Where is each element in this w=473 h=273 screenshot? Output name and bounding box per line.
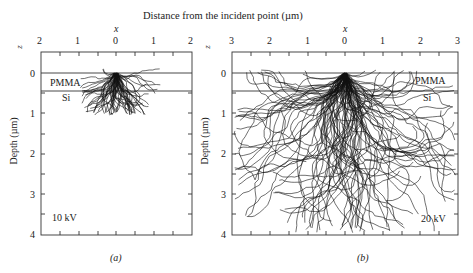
- panel-a-left-ticks: [41, 93, 45, 214]
- panel-b-top-ticks: [251, 52, 439, 56]
- panel-b-right-ticks: [454, 93, 458, 214]
- panel-a-trajectories: [80, 69, 160, 115]
- panel-b-bottom-ticks: [251, 231, 439, 235]
- panel-a-bottom-ticks: [60, 231, 173, 235]
- panel-b-trajectories: [234, 70, 455, 233]
- figure-graphics: [0, 0, 473, 273]
- panel-a-top-ticks: [60, 52, 173, 56]
- panel-a-right-ticks: [188, 93, 192, 214]
- panel-b-left-ticks: [232, 93, 236, 214]
